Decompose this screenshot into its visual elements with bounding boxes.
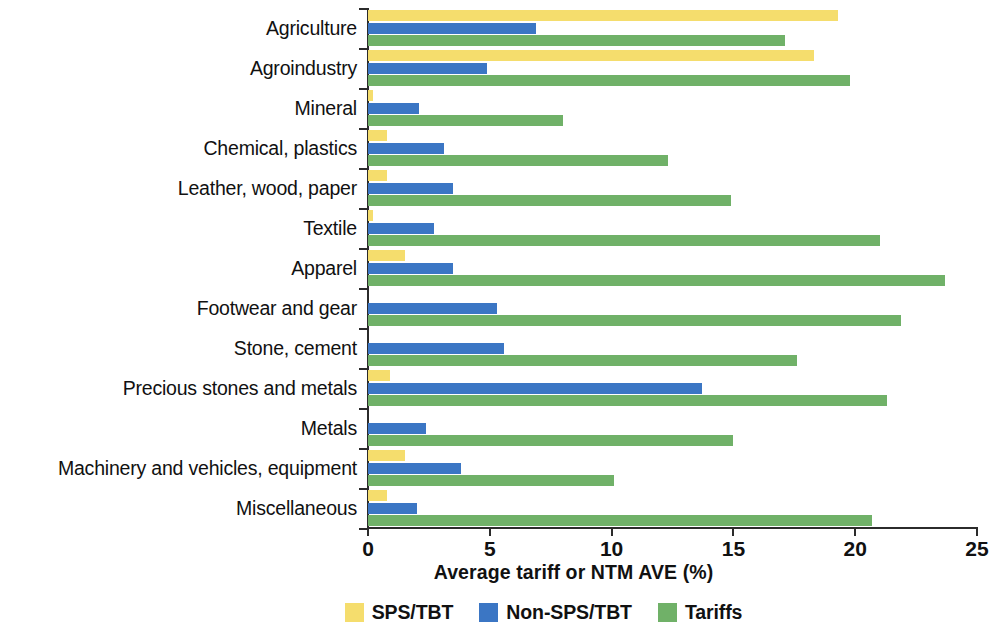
y-axis-tick xyxy=(359,368,368,370)
x-axis-tick-label: 0 xyxy=(362,537,374,561)
bar-tar xyxy=(368,475,614,486)
bar-tar xyxy=(368,355,797,366)
bar-nonsps xyxy=(368,503,417,514)
category-row: Machinery and vehicles, equipment xyxy=(368,448,977,488)
category-label: Agriculture xyxy=(266,17,357,40)
category-label: Apparel xyxy=(291,257,357,280)
bar-nonsps xyxy=(368,63,487,74)
x-axis-tick xyxy=(732,527,734,536)
x-axis-tick-label: 25 xyxy=(965,537,988,561)
category-label: Agroindustry xyxy=(250,57,357,80)
category-label: Footwear and gear xyxy=(197,297,357,320)
category-label: Machinery and vehicles, equipment xyxy=(58,457,357,480)
y-axis-tick xyxy=(359,408,368,410)
legend-label: Tariffs xyxy=(685,601,742,624)
category-label: Textile xyxy=(303,217,357,240)
bar-tar xyxy=(368,115,563,126)
category-row: Precious stones and metals xyxy=(368,368,977,408)
bar-nonsps xyxy=(368,103,419,114)
category-label: Leather, wood, paper xyxy=(178,177,357,200)
bar-sps xyxy=(368,90,373,101)
bar-tar xyxy=(368,235,880,246)
x-axis-title: Average tariff or NTM AVE (%) xyxy=(0,561,997,584)
bar-nonsps xyxy=(368,463,461,474)
category-row: Leather, wood, paper xyxy=(368,168,977,208)
y-axis-tick xyxy=(359,48,368,50)
bar-tar xyxy=(368,435,733,446)
y-axis-tick xyxy=(359,328,368,330)
x-axis-tick-label: 15 xyxy=(722,537,745,561)
bar-nonsps xyxy=(368,223,434,234)
bar-sps xyxy=(368,130,387,141)
bar-tar xyxy=(368,195,731,206)
chart-legend: SPS/TBTNon-SPS/TBTTariffs xyxy=(0,601,997,624)
bar-sps xyxy=(368,210,373,221)
y-axis-tick xyxy=(359,88,368,90)
x-axis-tick-label: 10 xyxy=(600,537,623,561)
category-row: Stone, cement xyxy=(368,328,977,368)
bar-nonsps xyxy=(368,303,497,314)
category-row: Chemical, plastics xyxy=(368,128,977,168)
x-axis-tick xyxy=(611,527,613,536)
y-axis-tick xyxy=(359,128,368,130)
bar-sps xyxy=(368,490,387,501)
bar-nonsps xyxy=(368,263,453,274)
category-label: Stone, cement xyxy=(234,337,357,360)
y-axis-tick xyxy=(359,488,368,490)
bar-nonsps xyxy=(368,343,504,354)
bar-tar xyxy=(368,155,668,166)
x-axis-tick-label: 20 xyxy=(844,537,867,561)
x-axis-tick xyxy=(976,527,978,536)
legend-entry: Non-SPS/TBT xyxy=(479,601,632,624)
category-row: Miscellaneous xyxy=(368,488,977,528)
y-axis-tick xyxy=(359,248,368,250)
bar-tar xyxy=(368,35,785,46)
legend-label: SPS/TBT xyxy=(372,601,454,624)
bar-tar xyxy=(368,515,872,526)
bar-nonsps xyxy=(368,383,702,394)
horizontal-bar-chart: AgricultureAgroindustryMineralChemical, … xyxy=(0,0,997,629)
category-label: Metals xyxy=(301,417,357,440)
category-label: Mineral xyxy=(294,97,357,120)
x-axis-tick-label: 5 xyxy=(484,537,496,561)
x-axis-tick xyxy=(367,527,369,536)
bar-tar xyxy=(368,395,887,406)
y-axis-tick xyxy=(359,8,368,10)
bar-nonsps xyxy=(368,423,426,434)
category-row: Agroindustry xyxy=(368,48,977,88)
y-axis-tick xyxy=(359,168,368,170)
bar-sps xyxy=(368,10,838,21)
bar-nonsps xyxy=(368,143,444,154)
plot-area: AgricultureAgroindustryMineralChemical, … xyxy=(368,8,977,528)
category-row: Metals xyxy=(368,408,977,448)
category-label: Precious stones and metals xyxy=(123,377,357,400)
x-axis-tick xyxy=(854,527,856,536)
category-row: Mineral xyxy=(368,88,977,128)
legend-entry: SPS/TBT xyxy=(345,601,454,624)
bar-sps xyxy=(368,250,405,261)
category-row: Apparel xyxy=(368,248,977,288)
y-axis-tick xyxy=(359,288,368,290)
x-axis-tick xyxy=(489,527,491,536)
category-row: Textile xyxy=(368,208,977,248)
bar-sps xyxy=(368,50,814,61)
legend-entry: Tariffs xyxy=(658,601,742,624)
y-axis-tick xyxy=(359,208,368,210)
bar-nonsps xyxy=(368,23,536,34)
bar-sps xyxy=(368,450,405,461)
category-row: Agriculture xyxy=(368,8,977,48)
legend-swatch-icon xyxy=(479,603,498,622)
legend-swatch-icon xyxy=(345,603,364,622)
legend-label: Non-SPS/TBT xyxy=(506,601,632,624)
y-axis-tick xyxy=(359,448,368,450)
bar-sps xyxy=(368,170,387,181)
category-label: Chemical, plastics xyxy=(203,137,357,160)
legend-swatch-icon xyxy=(658,603,677,622)
category-row: Footwear and gear xyxy=(368,288,977,328)
bar-sps xyxy=(368,370,390,381)
bar-tar xyxy=(368,315,901,326)
bar-tar xyxy=(368,75,850,86)
category-label: Miscellaneous xyxy=(236,497,357,520)
bar-tar xyxy=(368,275,945,286)
bar-nonsps xyxy=(368,183,453,194)
